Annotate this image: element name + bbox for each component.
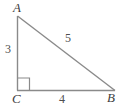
right-angle-marker-icon — [18, 78, 30, 91]
side-ab-line — [18, 16, 116, 91]
side-length-label-vertical-leg: 3 — [5, 43, 11, 55]
vertex-label-a: A — [13, 1, 21, 14]
vertex-label-b: B — [107, 91, 115, 104]
side-length-label-horizontal-leg: 4 — [59, 93, 65, 105]
triangle-figure: A C B 3 4 5 — [0, 0, 126, 108]
side-length-label-hypotenuse: 5 — [65, 32, 71, 44]
vertex-label-c: C — [12, 92, 21, 105]
